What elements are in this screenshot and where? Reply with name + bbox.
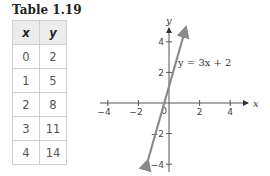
y-axis-label: y [165, 15, 172, 26]
equation-label: y = 3x + 2 [177, 57, 232, 68]
x-tick-label: 2 [197, 107, 203, 117]
line-y-3x-plus-2 [148, 27, 186, 160]
y-tick-label: −4 [151, 160, 165, 170]
y-tick-label: 2 [158, 68, 164, 78]
line-graph: −4 −2 0 2 4 4 2 −2 −4 x y y = 3x + 2 [0, 0, 270, 176]
x-tick-label: 4 [227, 107, 233, 117]
x-tick-label: −2 [129, 107, 142, 117]
x-tick-label: −4 [97, 107, 111, 117]
x-axis-label: x [253, 98, 259, 109]
y-tick-label: 4 [158, 37, 164, 47]
